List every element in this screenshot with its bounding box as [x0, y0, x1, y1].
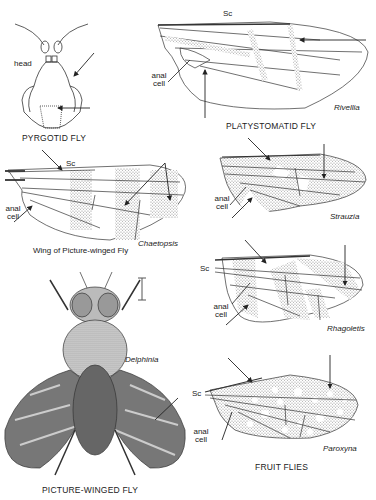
chaetopsis-sc-label: Sc — [66, 160, 75, 168]
pyrgotid-head-label: head — [14, 60, 32, 68]
picture-winged-fly-caption: PICTURE-WINGED FLY — [42, 485, 138, 495]
rhagoletis-anal-cell-label: anal cell — [210, 303, 232, 319]
chaetopsis-genus-label: Chaetopsis — [138, 240, 178, 248]
paroxyna-genus-label: Paroxyna — [323, 445, 357, 453]
rhagoletis-sc-label: Sc — [200, 265, 209, 273]
rhagoletis-genus-label: Rhagoletis — [327, 325, 365, 333]
rivellia-genus-label: Rivellia — [334, 104, 360, 112]
rivellia-wing-drawing — [158, 22, 368, 109]
paroxyna-sc-label: Sc — [192, 390, 201, 398]
strauzia-genus-label: Strauzia — [330, 213, 359, 221]
pyrgotid-head-drawing — [15, 24, 88, 128]
rivellia-anal-cell-label: anal cell — [148, 72, 170, 88]
delphinia-genus-label: Delphinia — [125, 356, 158, 364]
paroxyna-wing-drawing — [205, 375, 358, 438]
chaetopsis-wing-drawing — [5, 165, 186, 240]
strauzia-anal-cell-label: anal cell — [211, 195, 233, 211]
picture-wing-caption: Wing of Picture-winged Fly — [33, 247, 128, 255]
platystomatid-caption: PLATYSTOMATID FLY — [226, 121, 316, 131]
paroxyna-anal-cell-label: anal cell — [190, 428, 212, 444]
delphinia-fly-drawing — [5, 272, 185, 475]
rivellia-sc-label: Sc — [223, 10, 232, 18]
pyrgotid-caption: PYRGOTID FLY — [22, 133, 86, 143]
chaetopsis-anal-cell-label: anal cell — [2, 205, 24, 221]
rhagoletis-wing-drawing — [215, 255, 363, 322]
fruit-flies-caption: FRUIT FLIES — [255, 462, 308, 472]
